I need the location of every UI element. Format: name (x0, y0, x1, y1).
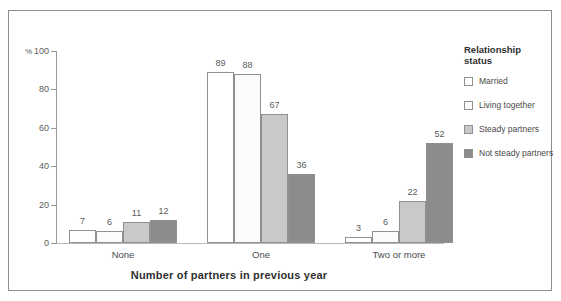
bar (345, 237, 372, 243)
legend-item-label: Steady partners (479, 124, 539, 134)
y-axis-tick-label: 100 (9, 47, 49, 56)
bar-value-label: 11 (123, 209, 150, 218)
bar (150, 220, 177, 243)
y-axis-tick-label: 60 (9, 124, 49, 133)
bar (123, 222, 150, 243)
legend-title-line1: Relationship (464, 44, 521, 55)
legend-title-line2: status (464, 55, 492, 66)
bar-group: 89886736 (207, 51, 315, 243)
legend-item-label: Not steady partners (479, 148, 553, 158)
bar-value-label: 6 (372, 218, 399, 227)
bar (426, 143, 453, 243)
bar-value-label: 7 (69, 217, 96, 226)
y-axis-tick-label: 40 (9, 162, 49, 171)
bar-value-label: 89 (207, 59, 234, 68)
y-axis-tick (51, 205, 57, 206)
bar-value-label: 52 (426, 130, 453, 139)
x-axis-title: Number of partners in previous year (9, 269, 449, 281)
x-axis-group-label: Two or more (339, 249, 459, 260)
bar-value-label: 3 (345, 224, 372, 233)
legend-items: MarriedLiving togetherSteady partnersNot… (464, 75, 561, 159)
bar (96, 231, 123, 243)
x-axis-baseline (57, 243, 444, 244)
y-axis-tick (51, 51, 57, 52)
bar-value-label: 36 (288, 161, 315, 170)
bar (261, 114, 288, 243)
bar (372, 231, 399, 243)
y-axis-tick (51, 166, 57, 167)
bar-value-label: 12 (150, 207, 177, 216)
bar (399, 201, 426, 243)
chart-legend: Relationship status MarriedLiving togeth… (464, 44, 561, 171)
bar-value-label: 6 (96, 218, 123, 227)
bar-value-label: 22 (399, 188, 426, 197)
legend-item[interactable]: Married (464, 75, 561, 87)
legend-swatch-icon (464, 149, 473, 158)
bar-group: 362252 (345, 51, 453, 243)
chart-frame: % 020406080100 76111289886736362252 Numb… (8, 10, 552, 291)
bar-value-label: 88 (234, 61, 261, 70)
bar (207, 72, 234, 243)
bar (234, 74, 261, 243)
y-axis-tick (51, 128, 57, 129)
bar-group: 761112 (69, 51, 177, 243)
legend-item[interactable]: Living together (464, 99, 561, 111)
legend-title: Relationship status (464, 44, 561, 66)
y-axis-tick-labels: 020406080100 (9, 11, 49, 301)
legend-item[interactable]: Steady partners (464, 123, 561, 135)
bar-value-label: 67 (261, 101, 288, 110)
y-axis-tick-label: 0 (9, 239, 49, 248)
y-axis-tick-label: 80 (9, 85, 49, 94)
x-axis-group-label: One (201, 249, 321, 260)
x-axis-group-label: None (63, 249, 183, 260)
legend-swatch-icon (464, 77, 473, 86)
bar (69, 230, 96, 243)
legend-swatch-icon (464, 125, 473, 134)
legend-item-label: Married (479, 76, 508, 86)
y-axis-tick-label: 20 (9, 201, 49, 210)
legend-item-label: Living together (479, 100, 535, 110)
y-axis-tick (51, 89, 57, 90)
bar (288, 174, 315, 243)
legend-item[interactable]: Not steady partners (464, 147, 561, 159)
y-axis-tick (51, 243, 57, 244)
plot-area: 76111289886736362252 (57, 51, 442, 243)
legend-swatch-icon (464, 101, 473, 110)
